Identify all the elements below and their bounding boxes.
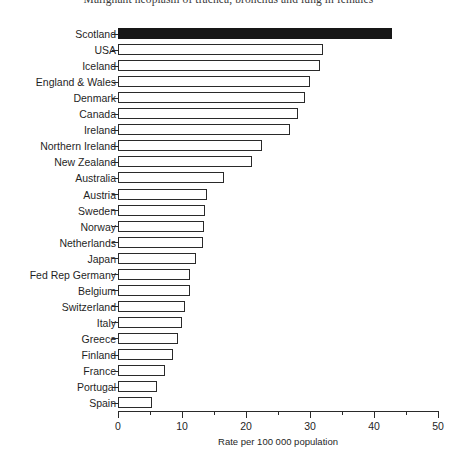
bar-belgium bbox=[118, 285, 190, 296]
x-tick-minor-15 bbox=[214, 411, 215, 415]
bar-row: Portugal bbox=[0, 379, 457, 395]
x-tick-major-10 bbox=[182, 411, 183, 418]
bar-row: Ireland bbox=[0, 122, 457, 138]
bar-ireland bbox=[118, 124, 290, 135]
category-label-austria: Austria bbox=[0, 187, 116, 203]
x-tick-minor-25 bbox=[278, 411, 279, 415]
category-label-portugal: Portugal bbox=[0, 379, 116, 395]
bar-row: New Zealand bbox=[0, 154, 457, 170]
bar-portugal bbox=[118, 381, 157, 392]
bar-row: Canada bbox=[0, 106, 457, 122]
x-tick-label-30: 30 bbox=[290, 420, 330, 433]
category-label-denmark: Denmark bbox=[0, 90, 116, 106]
category-label-sweden: Sweden bbox=[0, 203, 116, 219]
bar-scotland bbox=[118, 28, 392, 39]
bar-norway bbox=[118, 221, 204, 232]
category-label-new-zealand: New Zealand bbox=[0, 154, 116, 170]
bar-france bbox=[118, 365, 165, 376]
bar-row: Switzerland bbox=[0, 299, 457, 315]
x-tick-minor-45 bbox=[406, 411, 407, 415]
bar-australia bbox=[118, 172, 224, 183]
category-label-ireland: Ireland bbox=[0, 122, 116, 138]
bar-row: Fed Rep Germany bbox=[0, 267, 457, 283]
bar-england-wales bbox=[118, 76, 310, 87]
bar-row: Finland bbox=[0, 347, 457, 363]
category-label-greece: Greece bbox=[0, 331, 116, 347]
bar-row: Japan bbox=[0, 251, 457, 267]
category-label-northern-ireland: Northern Ireland bbox=[0, 138, 116, 154]
bar-row: Sweden bbox=[0, 203, 457, 219]
category-label-netherlands: Netherlands bbox=[0, 235, 116, 251]
x-tick-major-20 bbox=[246, 411, 247, 418]
bar-sweden bbox=[118, 205, 205, 216]
category-label-scotland: Scotland bbox=[0, 26, 116, 42]
bar-row: USA bbox=[0, 42, 457, 58]
bar-greece bbox=[118, 333, 178, 344]
x-tick-label-40: 40 bbox=[354, 420, 394, 433]
bar-row: France bbox=[0, 363, 457, 379]
bar-canada bbox=[118, 108, 298, 119]
bar-row: Netherlands bbox=[0, 235, 457, 251]
x-tick-label-50: 50 bbox=[418, 420, 457, 433]
bar-japan bbox=[118, 253, 196, 264]
category-label-finland: Finland bbox=[0, 347, 116, 363]
plot-area: ScotlandUSAIcelandEngland & WalesDenmark… bbox=[0, 0, 457, 473]
bar-row: Greece bbox=[0, 331, 457, 347]
category-label-belgium: Belgium bbox=[0, 283, 116, 299]
bar-row: Belgium bbox=[0, 283, 457, 299]
bar-row: Denmark bbox=[0, 90, 457, 106]
x-tick-major-50 bbox=[438, 411, 439, 418]
bar-italy bbox=[118, 317, 182, 328]
bar-row: Spain bbox=[0, 395, 457, 411]
bar-row: Norway bbox=[0, 219, 457, 235]
category-label-japan: Japan bbox=[0, 251, 116, 267]
bar-row: Italy bbox=[0, 315, 457, 331]
bar-spain bbox=[118, 397, 152, 408]
x-tick-label-10: 10 bbox=[162, 420, 202, 433]
chart-figure: Malignant neoplasm of trachea, bronchus … bbox=[0, 0, 457, 473]
bar-row: Austria bbox=[0, 187, 457, 203]
bar-row: England & Wales bbox=[0, 74, 457, 90]
category-label-england-wales: England & Wales bbox=[0, 74, 116, 90]
category-label-iceland: Iceland bbox=[0, 58, 116, 74]
x-tick-major-0 bbox=[118, 411, 119, 418]
bar-denmark bbox=[118, 92, 305, 103]
x-tick-minor-35 bbox=[342, 411, 343, 415]
bar-row: Scotland bbox=[0, 26, 457, 42]
bar-row: Iceland bbox=[0, 58, 457, 74]
bar-northern-ireland bbox=[118, 140, 262, 151]
category-label-australia: Australia bbox=[0, 170, 116, 186]
category-label-spain: Spain bbox=[0, 395, 116, 411]
bar-austria bbox=[118, 189, 207, 200]
bar-usa bbox=[118, 44, 323, 55]
category-label-usa: USA bbox=[0, 42, 116, 58]
x-tick-label-20: 20 bbox=[226, 420, 266, 433]
x-tick-label-0: 0 bbox=[98, 420, 138, 433]
x-axis-label: Rate per 100 000 population bbox=[118, 436, 438, 448]
category-label-france: France bbox=[0, 363, 116, 379]
category-label-switzerland: Switzerland bbox=[0, 299, 116, 315]
category-label-italy: Italy bbox=[0, 315, 116, 331]
x-tick-major-30 bbox=[310, 411, 311, 418]
bar-finland bbox=[118, 349, 173, 360]
bar-switzerland bbox=[118, 301, 185, 312]
x-tick-major-40 bbox=[374, 411, 375, 418]
bar-iceland bbox=[118, 60, 320, 71]
bar-fed-rep-germany bbox=[118, 269, 190, 280]
bar-new-zealand bbox=[118, 156, 252, 167]
bar-row: Australia bbox=[0, 170, 457, 186]
bar-row: Northern Ireland bbox=[0, 138, 457, 154]
bar-netherlands bbox=[118, 237, 203, 248]
category-label-norway: Norway bbox=[0, 219, 116, 235]
category-label-canada: Canada bbox=[0, 106, 116, 122]
x-tick-minor-5 bbox=[150, 411, 151, 415]
category-label-fed-rep-germany: Fed Rep Germany bbox=[0, 267, 116, 283]
